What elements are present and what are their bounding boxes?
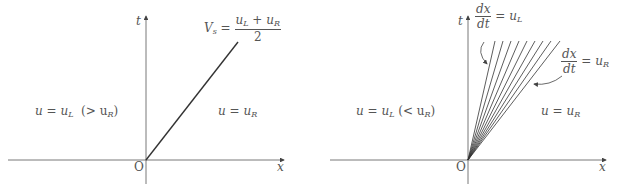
left-state-label: u = uL (< uR) — [356, 105, 435, 119]
left-state-label: u = uL (> uR) — [35, 105, 118, 119]
t-axis-label: t — [136, 15, 141, 27]
shock-diagram: t x O u = uL (> uR) u = uR Vs = uL + uR … — [0, 0, 314, 194]
right-state-label: u = uR — [218, 105, 257, 119]
char-left-label: dxdt = uL — [475, 3, 522, 30]
x-axis-label: x — [599, 161, 606, 173]
origin-label: O — [456, 161, 466, 173]
fan-axes — [314, 0, 629, 194]
shock-speed-formula: Vs = uL + uR 2 — [204, 14, 281, 43]
arrow-to-right-char — [534, 76, 562, 84]
right-state-label: u = uR — [541, 105, 580, 119]
arrow-to-left-char — [481, 42, 487, 64]
rarefaction-diagram: t x O u = uL (< uR) u = uR dxdt = uL dxd… — [314, 0, 629, 194]
characteristic-fan — [468, 41, 560, 160]
origin-label: O — [134, 161, 144, 173]
char-right-label: dxdt = uR — [561, 48, 609, 75]
t-axis-label: t — [458, 15, 463, 27]
shock-line — [146, 42, 238, 160]
x-axis-label: x — [277, 161, 284, 173]
